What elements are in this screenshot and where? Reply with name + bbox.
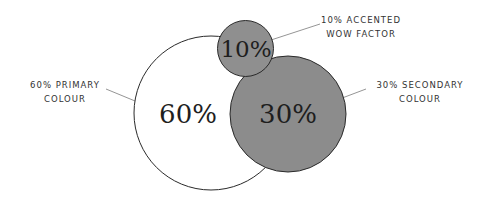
- primary-label: 60% PRIMARY COLOUR: [20, 78, 110, 106]
- accent-label: 10% ACCENTED WOW FACTOR: [316, 13, 406, 41]
- primary-label-line2: COLOUR: [20, 92, 110, 106]
- secondary-label-line2: COLOUR: [370, 92, 470, 106]
- primary-label-line1: 60% PRIMARY: [20, 78, 110, 92]
- accent-label-line2: WOW FACTOR: [316, 27, 406, 41]
- primary-value: 60%: [159, 99, 217, 129]
- secondary-label: 30% SECONDARY COLOUR: [370, 78, 470, 106]
- accent-value: 10%: [220, 36, 271, 62]
- secondary-value: 30%: [259, 99, 317, 129]
- secondary-label-line1: 30% SECONDARY: [370, 78, 470, 92]
- accent-label-line1: 10% ACCENTED: [316, 13, 406, 27]
- accent-leader-line: [271, 24, 320, 40]
